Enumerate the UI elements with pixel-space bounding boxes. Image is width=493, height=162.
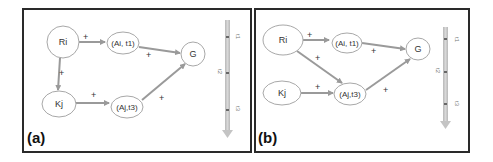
svg-text:Kj: Kj — [278, 88, 286, 98]
svg-text:t1: t1 — [235, 34, 241, 40]
svg-text:t2: t2 — [217, 69, 223, 75]
svg-text:Ri: Ri — [59, 37, 68, 47]
node-kj: Kj — [263, 81, 301, 105]
svg-text:(Ai, t1): (Ai, t1) — [111, 39, 135, 48]
node-ri: Ri — [263, 25, 303, 55]
plus-sign: + — [59, 68, 64, 78]
svg-text:G: G — [414, 44, 421, 54]
timeline-b: t1 t2 t3 — [435, 27, 460, 129]
node-kj: Kj — [42, 91, 76, 117]
svg-text:(Aj,t3): (Aj,t3) — [116, 103, 138, 112]
plus-sign: + — [383, 85, 388, 95]
panel-a-label: (a) — [27, 129, 45, 146]
plus-sign: + — [91, 90, 96, 100]
node-aj-t3: (Aj,t3) — [111, 96, 143, 118]
panel-b-graph: + + + + + Ri (Ai, t1) G Kj (Aj,t3) — [263, 25, 460, 129]
plus-sign: + — [371, 46, 376, 56]
node-g: G — [406, 38, 430, 60]
node-ri: Ri — [47, 26, 79, 58]
svg-text:t1: t1 — [454, 37, 460, 43]
svg-text:t2: t2 — [435, 68, 441, 74]
svg-text:t3: t3 — [235, 106, 241, 112]
svg-text:(Ai, t1): (Ai, t1) — [335, 39, 359, 48]
svg-text:Ri: Ri — [279, 35, 288, 45]
plus-sign: + — [315, 53, 320, 63]
plus-sign: + — [315, 82, 320, 92]
svg-text:(Aj,t3): (Aj,t3) — [339, 90, 361, 99]
node-g: G — [181, 42, 205, 66]
node-ai-t1: (Ai, t1) — [107, 32, 139, 54]
panel-a-graph: + + + + + Ri (Ai, t1) G Kj (Aj,t3) — [42, 20, 241, 138]
plus-sign: + — [307, 30, 312, 40]
plus-sign: + — [146, 50, 151, 60]
node-aj-t3: (Aj,t3) — [334, 83, 366, 105]
diagram-canvas: + + + + + Ri (Ai, t1) G Kj (Aj,t3) — [0, 0, 493, 162]
edge-ai-t1-g — [362, 43, 405, 49]
plus-sign: + — [83, 32, 88, 42]
plus-sign: + — [159, 93, 164, 103]
timeline-a: t1 t2 t3 — [217, 20, 241, 138]
svg-text:G: G — [189, 49, 196, 59]
panel-b-label: (b) — [258, 129, 277, 146]
node-ai-t1: (Ai, t1) — [332, 33, 362, 53]
svg-text:Kj: Kj — [55, 99, 63, 109]
svg-text:t3: t3 — [454, 101, 460, 107]
